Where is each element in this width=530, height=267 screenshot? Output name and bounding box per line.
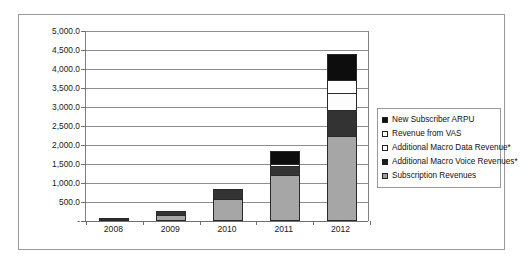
y-axis-tick	[81, 164, 86, 165]
chart-figure: -500.01,000.01,500.02,000.02,500.03,000.…	[18, 14, 505, 250]
x-axis-tick	[370, 221, 371, 225]
legend-item: Revenue from VAS	[382, 127, 497, 141]
x-axis-tick-label: 2008	[85, 225, 141, 234]
legend-swatch-icon	[382, 173, 388, 179]
bar-segment	[327, 110, 357, 136]
legend-swatch-icon	[382, 145, 388, 151]
legend-item: Additional Macro Data Revenue*	[382, 141, 497, 155]
y-axis-tick-label: 500.0	[59, 198, 80, 206]
y-axis-tick	[81, 50, 86, 51]
x-axis-tick-label: 2009	[142, 225, 198, 234]
gridline	[86, 31, 368, 32]
y-axis-tick	[81, 88, 86, 89]
y-axis-tick-label: 2,500.0	[52, 122, 80, 130]
y-axis-tick	[81, 145, 86, 146]
bar-2009	[156, 211, 186, 221]
legend-item-label: Subscription Revenues	[392, 172, 476, 180]
chart-legend: New Subscriber ARPURevenue from VASAddit…	[377, 108, 501, 188]
y-axis-tick	[81, 107, 86, 108]
x-axis-tick-label: 2010	[199, 225, 255, 234]
bar-segment	[327, 93, 357, 110]
bar-segment	[327, 80, 357, 93]
legend-item-label: New Subscriber ARPU	[392, 116, 474, 124]
bar-2010	[213, 189, 243, 221]
y-axis-tick-label: 5,000.0	[52, 27, 80, 35]
x-axis-labels: 20082009201020112012	[85, 225, 369, 241]
gridline	[86, 50, 368, 51]
bar-segment	[270, 175, 300, 221]
y-axis-labels: -500.01,000.01,500.02,000.02,500.03,000.…	[19, 31, 80, 221]
legend-swatch-icon	[382, 159, 388, 165]
legend-item-label: Additional Macro Data Revenue*	[392, 144, 511, 152]
legend-swatch-icon	[382, 131, 388, 137]
y-axis-tick-label: 3,500.0	[52, 84, 80, 92]
bar-2012	[327, 54, 357, 221]
x-axis-tick-label: 2011	[256, 225, 312, 234]
gridline	[86, 221, 368, 222]
y-axis-tick-label: 3,000.0	[52, 103, 80, 111]
bar-2011	[270, 151, 300, 221]
legend-swatch-icon	[382, 117, 388, 123]
bar-segment	[213, 199, 243, 221]
legend-item-label: Revenue from VAS	[392, 130, 461, 138]
bar-segment	[99, 219, 129, 221]
y-axis-tick	[81, 126, 86, 127]
bar-2008	[99, 218, 129, 221]
y-axis-tick	[81, 183, 86, 184]
y-axis-tick-label: 4,500.0	[52, 46, 80, 54]
bar-segment	[327, 54, 357, 80]
y-axis-tick-label: 2,000.0	[52, 141, 80, 149]
bar-segment	[213, 189, 243, 200]
x-axis-tick-label: 2012	[313, 225, 369, 234]
bar-segment	[270, 166, 300, 174]
plot-area	[85, 31, 369, 221]
y-axis-tick-label: 4,000.0	[52, 65, 80, 73]
bar-segment	[156, 215, 186, 221]
bar-segment	[327, 136, 357, 222]
y-axis-tick-label: -	[77, 217, 80, 225]
legend-item-label: Additional Macro Voice Revenues*	[392, 158, 518, 166]
bar-segment	[270, 151, 300, 164]
legend-item: Additional Macro Voice Revenues*	[382, 155, 497, 169]
legend-item: Subscription Revenues	[382, 169, 497, 183]
legend-item: New Subscriber ARPU	[382, 113, 497, 127]
y-axis-tick	[81, 69, 86, 70]
y-axis-tick	[81, 202, 86, 203]
y-axis-tick-label: 1,500.0	[52, 160, 80, 168]
y-axis-tick-label: 1,000.0	[52, 179, 80, 187]
y-axis-tick	[81, 31, 86, 32]
